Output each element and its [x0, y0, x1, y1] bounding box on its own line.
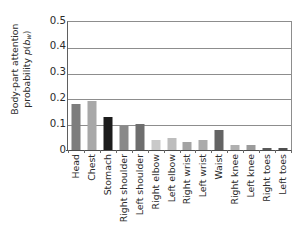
- x-axis-label: Left elbow: [167, 154, 176, 202]
- bar[interactable]: [151, 140, 160, 150]
- x-tickmark: [211, 150, 212, 153]
- x-tickmark: [195, 150, 196, 153]
- x-tickmark: [275, 150, 276, 153]
- x-label-slot: Waist: [211, 154, 227, 233]
- y-axis-title-p: p: [20, 49, 31, 55]
- y-tick-label-0: 0: [42, 145, 66, 155]
- x-tickmark: [259, 150, 260, 153]
- x-label-slot: Left elbow: [164, 154, 180, 233]
- bar[interactable]: [135, 124, 144, 150]
- x-label-slot: Left knee: [243, 154, 259, 233]
- bar-slot: [148, 21, 164, 150]
- x-axis-label: Right knee: [231, 154, 240, 205]
- y-axis-title-line2-prefix: probability: [20, 55, 31, 108]
- y-axis-title-paren-close: ): [20, 31, 31, 35]
- x-tickmark: [180, 150, 181, 153]
- y-axis-title: Body-part attention probability p(bw): [9, 3, 35, 135]
- x-tickmark: [100, 150, 101, 153]
- x-axis-label: Head: [71, 154, 80, 179]
- bar[interactable]: [71, 104, 80, 150]
- x-axis-label: Chest: [87, 154, 96, 181]
- x-label-slot: Left wrist: [195, 154, 211, 233]
- bar-slot: [195, 21, 211, 150]
- x-tickmark: [116, 150, 117, 153]
- bar-slot: [100, 21, 116, 150]
- y-tick-label-0.5: 0.5: [42, 16, 66, 26]
- bar-slot: [116, 21, 132, 150]
- y-tick-label-0.1: 0.1: [42, 119, 66, 129]
- bar-slot: [243, 21, 259, 150]
- y-axis-title-paren-open: (: [20, 46, 31, 50]
- x-label-slot: Right wrist: [180, 154, 196, 233]
- x-tickmark: [291, 150, 292, 153]
- y-tick-label-0.3: 0.3: [42, 67, 66, 77]
- bar-slot: [132, 21, 148, 150]
- x-axis-label: Left toes: [278, 154, 287, 195]
- bar[interactable]: [215, 130, 224, 150]
- x-label-slot: Chest: [84, 154, 100, 233]
- x-axis-label: Waist: [215, 154, 224, 180]
- x-label-slot: Stomach: [100, 154, 116, 233]
- x-tickmark: [84, 150, 85, 153]
- x-axis-label: Right wrist: [183, 154, 192, 204]
- x-tickmark: [148, 150, 149, 153]
- bar-series: [68, 21, 291, 150]
- y-axis-title-subscript-w: w: [25, 34, 33, 39]
- x-label-slot: Right shoulder: [116, 154, 132, 233]
- x-tickmark: [68, 150, 69, 153]
- bar[interactable]: [103, 117, 112, 150]
- bar-slot: [259, 21, 275, 150]
- x-axis-label: Right toes: [262, 154, 271, 202]
- x-label-slot: Head: [68, 154, 84, 233]
- bar-slot: [180, 21, 196, 150]
- x-axis-label: Right shoulder: [119, 154, 128, 222]
- bar-slot: [275, 21, 291, 150]
- bar-chart: Body-part attention probability p(bw) 0.…: [0, 0, 300, 233]
- x-tickmark: [164, 150, 165, 153]
- x-label-slot: Right elbow: [148, 154, 164, 233]
- bar-slot: [84, 21, 100, 150]
- x-label-slot: Left shoulder: [132, 154, 148, 233]
- x-label-slot: Right knee: [227, 154, 243, 233]
- y-tick-label-0.4: 0.4: [42, 41, 66, 51]
- x-label-slot: Left toes: [275, 154, 291, 233]
- y-tick-label-0.2: 0.2: [42, 93, 66, 103]
- bar-slot: [68, 21, 84, 150]
- bar[interactable]: [119, 126, 128, 150]
- bar-slot: [164, 21, 180, 150]
- x-axis-label: Left wrist: [199, 154, 208, 197]
- bar-slot: [227, 21, 243, 150]
- y-axis-title-line1: Body-part attention: [9, 24, 20, 115]
- x-tickmark: [227, 150, 228, 153]
- x-axis-label: Left knee: [246, 154, 255, 198]
- x-axis-labels: HeadChestStomachRight shoulderLeft shoul…: [68, 154, 291, 233]
- bar[interactable]: [87, 101, 96, 150]
- x-axis-label: Stomach: [103, 154, 112, 195]
- bar[interactable]: [167, 138, 176, 150]
- x-axis-label: Left shoulder: [135, 154, 144, 215]
- y-axis-title-b: b: [20, 40, 31, 46]
- x-tickmark: [132, 150, 133, 153]
- x-tickmark: [243, 150, 244, 153]
- x-label-slot: Right toes: [259, 154, 275, 233]
- x-axis-label: Right elbow: [151, 154, 160, 209]
- bar-slot: [211, 21, 227, 150]
